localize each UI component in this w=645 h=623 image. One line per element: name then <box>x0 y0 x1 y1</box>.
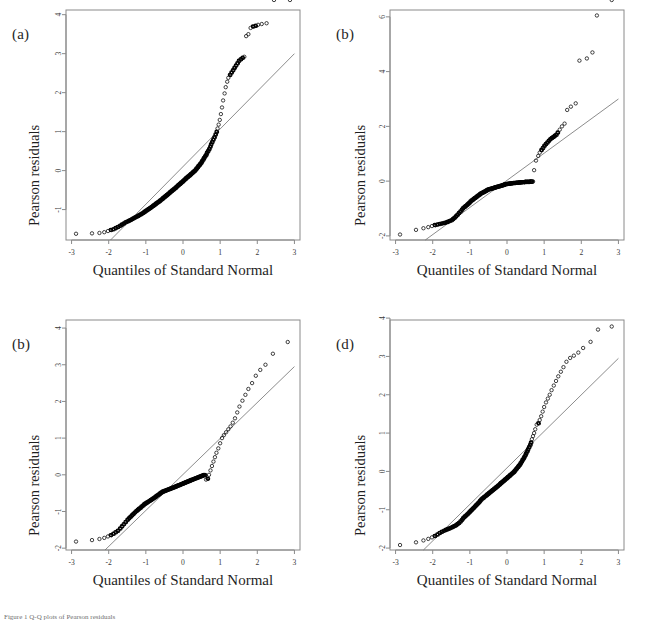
svg-text:1: 1 <box>542 558 546 567</box>
svg-text:3: 3 <box>617 558 621 567</box>
panel-c: (b) Pearson residuals Quantiles of Stand… <box>0 310 322 610</box>
svg-text:-2: -2 <box>54 545 63 552</box>
svg-text:3: 3 <box>617 248 621 257</box>
svg-text:4: 4 <box>378 316 387 320</box>
svg-text:-1: -1 <box>467 558 474 567</box>
svg-text:1: 1 <box>218 558 222 567</box>
svg-text:-2: -2 <box>430 248 437 257</box>
svg-text:-2: -2 <box>106 248 113 257</box>
svg-text:2: 2 <box>54 91 63 95</box>
svg-text:2: 2 <box>378 124 387 128</box>
svg-text:-1: -1 <box>467 248 474 257</box>
svg-text:3: 3 <box>54 52 63 56</box>
svg-text:0: 0 <box>378 179 387 183</box>
figure-panel-grid: (a) Pearson residuals Quantiles of Stand… <box>0 0 645 623</box>
svg-text:1: 1 <box>54 130 63 134</box>
panel-a-plot: -3-2-10123-101234 <box>0 0 322 300</box>
panel-c-plot: -3-2-10123-2-101234 <box>0 310 322 610</box>
svg-text:0: 0 <box>181 248 185 257</box>
svg-text:-1: -1 <box>54 206 63 213</box>
svg-text:0: 0 <box>181 558 185 567</box>
panel-b-plot: -3-2-10123-20246 <box>322 0 645 300</box>
svg-text:-1: -1 <box>54 508 63 515</box>
svg-text:2: 2 <box>579 248 583 257</box>
svg-text:1: 1 <box>378 431 387 435</box>
svg-text:-2: -2 <box>430 558 437 567</box>
panel-d-plot: -3-2-10123-2-101234 <box>322 310 645 610</box>
svg-text:2: 2 <box>255 248 259 257</box>
svg-text:3: 3 <box>293 558 297 567</box>
svg-text:3: 3 <box>293 248 297 257</box>
svg-text:-2: -2 <box>378 233 387 240</box>
svg-text:1: 1 <box>218 248 222 257</box>
figure-caption: Figure 1 Q-Q plots of Pearson residuals <box>4 613 115 621</box>
svg-text:1: 1 <box>542 248 546 257</box>
svg-text:3: 3 <box>378 354 387 358</box>
svg-text:-3: -3 <box>392 248 399 257</box>
svg-text:-2: -2 <box>378 545 387 552</box>
svg-text:2: 2 <box>378 393 387 397</box>
panel-b: (b) Pearson residuals Quantiles of Stand… <box>322 0 645 300</box>
svg-text:-1: -1 <box>143 558 150 567</box>
svg-text:-3: -3 <box>68 248 75 257</box>
svg-text:0: 0 <box>54 169 63 173</box>
svg-text:2: 2 <box>255 558 259 567</box>
svg-text:2: 2 <box>54 399 63 403</box>
svg-text:0: 0 <box>505 248 509 257</box>
svg-text:0: 0 <box>378 469 387 473</box>
svg-text:2: 2 <box>579 558 583 567</box>
svg-text:-3: -3 <box>392 558 399 567</box>
svg-text:-1: -1 <box>143 248 150 257</box>
panel-d: (d) Pearson residuals Quantiles of Stand… <box>322 310 645 610</box>
svg-text:0: 0 <box>505 558 509 567</box>
svg-text:4: 4 <box>378 70 387 74</box>
svg-text:-2: -2 <box>106 558 113 567</box>
svg-text:6: 6 <box>378 15 387 19</box>
svg-text:3: 3 <box>54 363 63 367</box>
svg-text:4: 4 <box>54 326 63 330</box>
svg-text:1: 1 <box>54 436 63 440</box>
svg-text:0: 0 <box>54 473 63 477</box>
panel-a: (a) Pearson residuals Quantiles of Stand… <box>0 0 322 300</box>
svg-text:-1: -1 <box>378 506 387 513</box>
svg-text:-3: -3 <box>68 558 75 567</box>
svg-text:4: 4 <box>54 13 63 17</box>
